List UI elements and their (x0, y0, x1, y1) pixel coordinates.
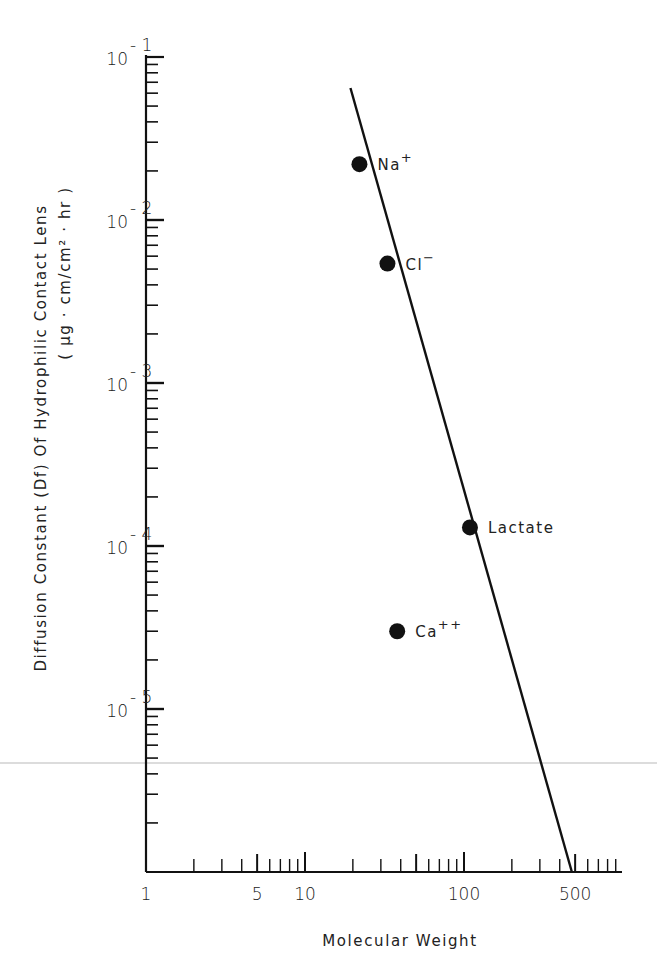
axes (146, 55, 622, 872)
x-tick-label: 1 (141, 884, 152, 904)
fit-line (350, 88, 571, 872)
point-label-charge: − (423, 250, 435, 265)
regression-line (350, 88, 571, 872)
y-tick-label: 10 (106, 701, 128, 721)
data-point: Na+ (351, 150, 413, 174)
point-label: Ca++ (415, 617, 462, 641)
point-label: Na+ (377, 150, 413, 174)
data-point: Ca++ (389, 617, 462, 641)
point-marker (351, 156, 367, 172)
x-axis-title: Molecular Weight (322, 932, 477, 950)
x-tick-label: 100 (448, 884, 480, 904)
y-tick-exponent: - 5 (130, 687, 152, 707)
point-marker (462, 519, 478, 535)
y-tick-label: 10 (106, 538, 128, 558)
x-axis-ticks (194, 852, 616, 872)
y-tick-exponent: - 1 (130, 35, 152, 55)
point-label-charge: + (401, 150, 413, 165)
data-points: Na+Cl−LactateCa++ (351, 150, 554, 641)
x-tick-label: 5 (252, 884, 263, 904)
point-label-charge: ++ (438, 617, 463, 632)
chart: 10- 110- 210- 310- 410- 5 1510100500 Na+… (0, 0, 657, 973)
x-tick-label: 10 (294, 884, 316, 904)
point-marker (389, 623, 405, 639)
y-tick-exponent: - 2 (130, 198, 152, 218)
y-tick-label: 10 (106, 49, 128, 69)
y-axis-ticks (146, 57, 164, 823)
y-tick-label: 10 (106, 375, 128, 395)
data-point: Cl− (379, 250, 435, 274)
point-label: Lactate (488, 519, 554, 537)
y-axis-title: Diffusion Constant (Df) Of Hydrophilic C… (32, 204, 50, 671)
x-tick-label: 500 (559, 884, 591, 904)
y-tick-exponent: - 4 (130, 524, 152, 544)
x-axis-tick-labels: 1510100500 (141, 884, 592, 904)
point-label: Cl− (405, 250, 435, 274)
y-tick-exponent: - 3 (130, 361, 152, 381)
y-tick-label: 10 (106, 212, 128, 232)
point-marker (379, 256, 395, 272)
y-axis-units: ( μg · cm/cm² · hr ) (56, 186, 74, 359)
